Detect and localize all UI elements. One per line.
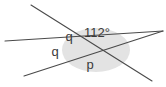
angle-label-q-lower: q — [51, 44, 58, 59]
angle-label-p: p — [86, 57, 93, 72]
geometry-figure-canvas: q 112° q p — [0, 0, 166, 87]
geometry-diagram-svg: q 112° q p — [0, 0, 166, 87]
angle-label-q-upper: q — [65, 29, 72, 44]
angle-label-112-degrees: 112° — [84, 25, 110, 40]
